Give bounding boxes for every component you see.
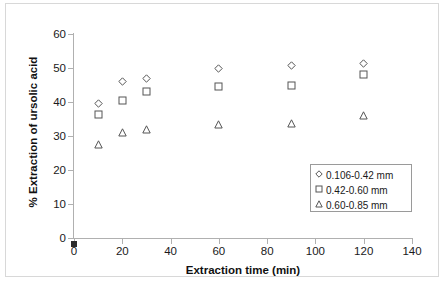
square-icon bbox=[315, 185, 326, 196]
data-point bbox=[94, 140, 103, 149]
data-point bbox=[214, 64, 223, 73]
x-axis-line bbox=[73, 238, 413, 239]
y-tick-60 bbox=[68, 34, 74, 35]
y-tick-0 bbox=[68, 238, 74, 239]
x-tick-140 bbox=[412, 239, 413, 244]
legend-label: 0.60-0.85 mm bbox=[326, 200, 388, 211]
legend-label: 0.106-0.42 mm bbox=[326, 170, 393, 181]
data-point bbox=[142, 87, 151, 96]
data-point bbox=[287, 61, 296, 70]
legend-item: 0.106-0.42 mm bbox=[315, 168, 411, 182]
legend-item: 0.60-0.85 mm bbox=[315, 198, 411, 212]
data-point bbox=[287, 81, 296, 90]
y-tick-50 bbox=[68, 68, 74, 69]
legend-label: 0.42-0.60 mm bbox=[326, 185, 388, 196]
y-tick-10 bbox=[68, 204, 74, 205]
x-tick-label: 60 bbox=[199, 245, 239, 257]
y-axis-title: % Extraction of ursolic acid bbox=[27, 27, 39, 237]
x-tick-80 bbox=[267, 239, 268, 244]
data-point bbox=[118, 128, 127, 137]
data-point bbox=[214, 82, 223, 91]
y-tick-30 bbox=[68, 136, 74, 137]
x-tick-label: 120 bbox=[344, 245, 384, 257]
x-tick-40 bbox=[171, 239, 172, 244]
x-tick-60 bbox=[219, 239, 220, 244]
y-tick-40 bbox=[68, 102, 74, 103]
y-tick-20 bbox=[68, 170, 74, 171]
data-point bbox=[214, 120, 223, 129]
x-tick-20 bbox=[122, 239, 123, 244]
legend-item: 0.42-0.60 mm bbox=[315, 183, 411, 197]
x-tick-label: 20 bbox=[102, 245, 142, 257]
data-point bbox=[94, 110, 103, 119]
chart-figure: 0102030405060 020406080100120140 Extract… bbox=[0, 0, 447, 287]
x-tick-label: 40 bbox=[151, 245, 191, 257]
data-point bbox=[94, 99, 103, 108]
data-point bbox=[118, 77, 127, 86]
data-point bbox=[359, 59, 368, 68]
x-tick-label: 140 bbox=[392, 245, 432, 257]
data-point bbox=[287, 119, 296, 128]
data-point bbox=[359, 70, 368, 79]
triangle-icon bbox=[315, 200, 326, 211]
diamond-icon bbox=[315, 170, 326, 181]
x-tick-120 bbox=[364, 239, 365, 244]
x-tick-label: 80 bbox=[247, 245, 287, 257]
data-point bbox=[118, 96, 127, 105]
x-tick-label: 100 bbox=[295, 245, 335, 257]
data-point bbox=[142, 125, 151, 134]
chart-legend: 0.106-0.42 mm0.42-0.60 mm0.60-0.85 mm bbox=[310, 164, 412, 212]
x-tick-100 bbox=[315, 239, 316, 244]
data-point bbox=[359, 111, 368, 120]
x-axis-title: Extraction time (min) bbox=[74, 264, 412, 276]
data-point bbox=[142, 74, 151, 83]
